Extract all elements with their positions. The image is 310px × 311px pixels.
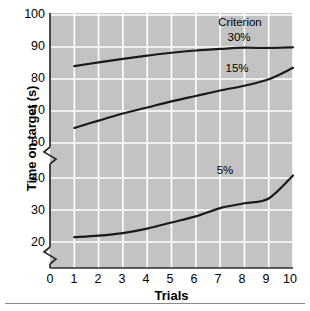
footer-divider — [5, 303, 305, 304]
plot-canvas — [0, 0, 310, 311]
series-5-label: 5% — [205, 164, 245, 176]
criterion-label: Criterion — [208, 16, 272, 28]
series-15-label: 15% — [214, 62, 260, 74]
chart-figure: Time on target (s) 100 90 80 70 60 40 30… — [0, 0, 310, 311]
series-30-label: 30% — [216, 31, 262, 43]
